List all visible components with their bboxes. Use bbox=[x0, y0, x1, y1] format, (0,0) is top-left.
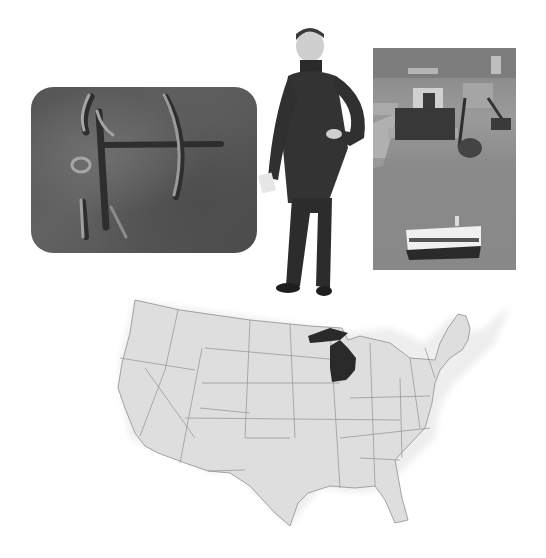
ship-scene-icon bbox=[373, 48, 516, 270]
ship-locks-photo bbox=[373, 48, 516, 270]
petroglyph-image bbox=[31, 87, 257, 253]
us-map bbox=[90, 288, 520, 540]
portrait-image bbox=[258, 28, 372, 298]
archer-carving-icon bbox=[31, 87, 257, 253]
united-states-map-icon bbox=[90, 288, 520, 540]
man-portrait-icon bbox=[258, 28, 372, 298]
